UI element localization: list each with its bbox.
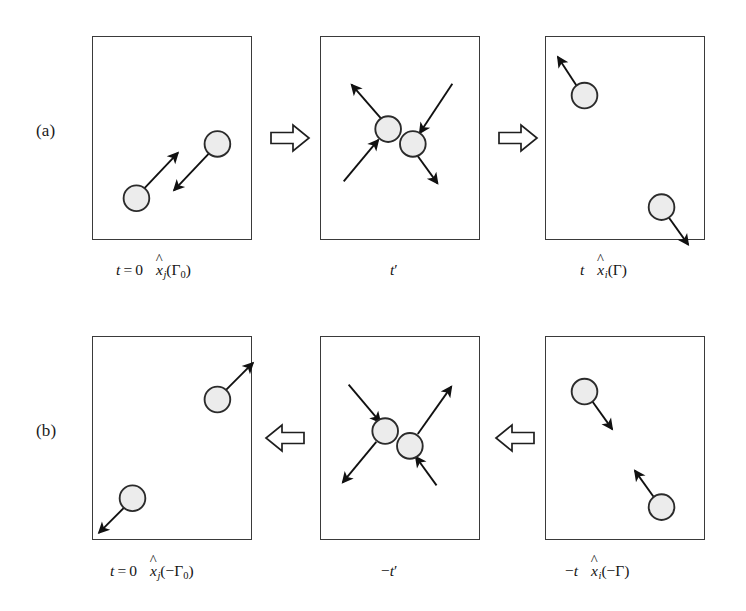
panel-a2-graphics <box>321 37 479 239</box>
flow-arrow-left-icon <box>264 422 306 454</box>
particle <box>397 433 423 459</box>
row-label-a: (a) <box>36 121 55 141</box>
particle <box>120 485 146 511</box>
velocity-arrow <box>558 57 577 86</box>
velocity-arrow <box>143 153 178 190</box>
particle <box>400 131 426 157</box>
velocity-arrow <box>420 84 453 133</box>
caption-a3: t^xi(Γ) <box>580 261 627 280</box>
panel-a3-graphics <box>546 37 704 239</box>
caption-a1: t = 0^xj(Γ0) <box>116 261 191 280</box>
particle <box>205 387 231 413</box>
panel-b1-graphics <box>93 337 251 539</box>
velocity-arrow <box>592 401 612 429</box>
panel-a3 <box>545 36 705 240</box>
particle <box>205 131 231 157</box>
particle <box>572 379 598 405</box>
velocity-arrow <box>99 507 125 533</box>
panel-b2-graphics <box>321 337 479 539</box>
velocity-arrow <box>668 217 688 245</box>
velocity-arrow <box>635 471 655 499</box>
particle <box>375 116 401 142</box>
velocity-arrow <box>225 363 253 391</box>
particle <box>124 185 150 211</box>
panel-b3 <box>545 336 705 540</box>
velocity-arrow <box>349 385 381 423</box>
panel-b3-graphics <box>546 337 704 539</box>
velocity-arrow <box>416 457 437 486</box>
caption-a2: t′ <box>390 261 398 279</box>
particle <box>649 194 675 220</box>
velocity-arrow <box>344 140 379 181</box>
figure-root: (a) <box>0 0 746 611</box>
caption-b1: t = 0^xj(−Γ0) <box>110 562 194 581</box>
velocity-arrow <box>343 442 377 482</box>
panel-a1-graphics <box>93 37 251 239</box>
velocity-arrow <box>352 85 385 123</box>
particle <box>649 494 675 520</box>
particle <box>572 83 598 109</box>
row-label-b: (b) <box>36 421 56 441</box>
caption-b2: −t′ <box>381 562 397 580</box>
velocity-arrow <box>418 387 452 434</box>
flow-arrow-right-icon <box>497 122 539 154</box>
particle <box>372 418 398 444</box>
flow-arrow-right-icon <box>269 122 311 154</box>
caption-b3: −t^xi(−Γ) <box>565 562 629 581</box>
panel-b1 <box>92 336 252 540</box>
panel-a2 <box>320 36 480 240</box>
velocity-arrow <box>174 154 209 191</box>
velocity-arrow <box>417 155 438 184</box>
panel-b2 <box>320 336 480 540</box>
flow-arrow-left-icon <box>494 422 536 454</box>
panel-a1 <box>92 36 252 240</box>
